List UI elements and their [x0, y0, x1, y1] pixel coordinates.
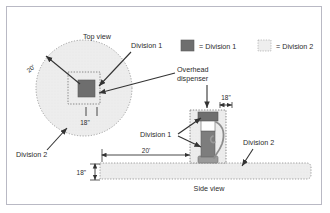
top-view-division2-arrow [47, 128, 67, 150]
topview-division1-label: Division 1 [131, 41, 162, 50]
side-view-title: Side view [194, 184, 226, 193]
legend-swatch-division1 [181, 40, 194, 51]
side-view-horizontal-label: 20' [142, 147, 150, 154]
legend-label-division1: = Division 1 [199, 42, 236, 51]
legend-group: = Division 1 = Division 2 [181, 40, 313, 51]
classified-area-diagram: 20' 18" Top view Division 2 Division 1 O… [0, 0, 330, 213]
side-view-division2-band [100, 163, 311, 179]
top-view-group: 20' 18" Top view Division 2 [16, 32, 132, 159]
top-view-radius-label: 20' [25, 63, 36, 74]
top-view-division1-square [78, 80, 95, 97]
dispenser-body [201, 131, 215, 157]
legend-swatch-division2 [258, 40, 271, 51]
top-view-width-label: 18" [80, 119, 89, 126]
top-view-title: Top view [83, 32, 112, 41]
top-view-division2-label: Division 2 [16, 150, 47, 159]
side-view-top-width-label: 18" [221, 94, 230, 101]
overhead-dispenser-label-line1: Overhead [177, 65, 209, 74]
sideview-division2-label: Division 2 [243, 138, 274, 147]
legend-label-division2: = Division 2 [276, 42, 313, 51]
overhead-dispenser-label-line2: dispenser [177, 74, 209, 83]
dispenser-display-panel [201, 120, 215, 131]
sideview-division1-label: Division 1 [140, 130, 171, 139]
dispenser-head-division1 [198, 112, 218, 121]
side-view-band-height-label: 18" [77, 169, 86, 176]
figure-page: 20' 18" Top view Division 2 Division 1 O… [0, 0, 330, 213]
